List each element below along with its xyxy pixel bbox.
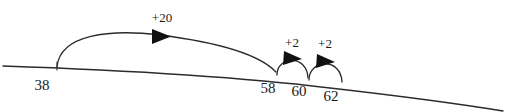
number-line-diagram: +20 +2 +2 38 58 60 62: [0, 0, 505, 112]
number-line-baseline: [3, 66, 503, 111]
jump-label-plus20: +20: [152, 10, 172, 25]
number-line-canvas: +20 +2 +2 38 58 60 62: [0, 0, 505, 112]
tick-label-58: 58: [261, 80, 276, 96]
arrowhead-plus2-first-icon: [283, 51, 302, 65]
tick-label-62: 62: [324, 88, 339, 104]
tick-label-60: 60: [292, 83, 307, 99]
arrowhead-plus20-icon: [152, 29, 171, 44]
jump-label-plus2-second: +2: [318, 36, 332, 51]
jump-arc-plus2-first: [277, 60, 308, 78]
jump-arc-plus20: [57, 33, 276, 72]
tick-label-38: 38: [35, 77, 50, 93]
jump-arc-plus2-second: [309, 64, 342, 82]
jump-label-plus2-first: +2: [285, 35, 299, 50]
